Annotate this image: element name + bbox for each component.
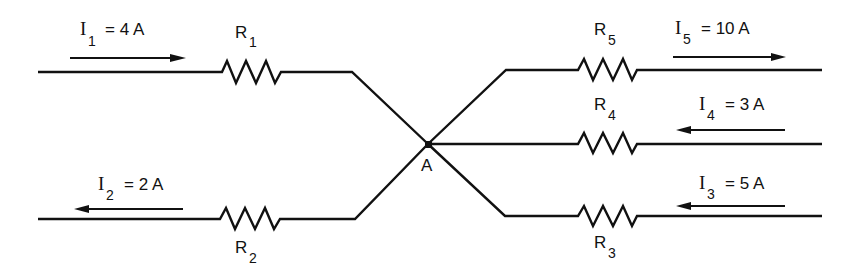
circuit-diagram: A I 1 = 4 A I 2 = 2 A I 5 = 10 A I 4 = 3… (0, 0, 849, 276)
svg-text:= 5 A: = 5 A (725, 174, 765, 193)
svg-text:R: R (594, 95, 606, 114)
branch-r2 (38, 144, 428, 229)
resistor-label-r1: R 1 (235, 23, 257, 50)
resistor-label-r5: R 5 (594, 20, 616, 48)
svg-text:I: I (80, 18, 86, 39)
svg-text:4: 4 (707, 107, 715, 123)
svg-text:R: R (235, 23, 247, 42)
resistor-label-r4: R 4 (594, 95, 616, 123)
current-label-i1: I 1 = 4 A (80, 18, 145, 49)
svg-text:I: I (699, 93, 705, 114)
current-label-i4: I 4 = 3 A (699, 93, 765, 123)
current-label-i2: I 2 = 2 A (98, 173, 164, 203)
arrow-i4 (676, 126, 785, 134)
svg-text:3: 3 (608, 245, 616, 261)
svg-text:5: 5 (608, 32, 616, 48)
svg-text:2: 2 (249, 250, 257, 266)
svg-text:1: 1 (249, 34, 257, 50)
svg-text:= 10 A: = 10 A (701, 19, 750, 38)
svg-text:1: 1 (88, 33, 96, 49)
resistor-label-r3: R 3 (594, 233, 616, 261)
svg-text:R: R (235, 238, 247, 257)
resistor-label-r2: R 2 (235, 238, 257, 266)
svg-text:R: R (594, 20, 606, 39)
branch-r1 (38, 61, 428, 144)
svg-text:4: 4 (608, 107, 616, 123)
svg-text:= 2 A: = 2 A (124, 175, 164, 194)
arrow-i3 (676, 202, 785, 210)
current-label-i3: I 3 = 5 A (699, 172, 765, 202)
current-label-i5: I 5 = 10 A (675, 17, 750, 47)
svg-text:3: 3 (707, 186, 715, 202)
svg-text:2: 2 (106, 187, 114, 203)
svg-text:= 4 A: = 4 A (105, 20, 145, 39)
node-a-dot (425, 141, 432, 148)
arrow-i1 (70, 54, 186, 62)
svg-text:= 3 A: = 3 A (725, 95, 765, 114)
svg-text:R: R (594, 233, 606, 252)
svg-text:I: I (699, 172, 705, 193)
svg-text:I: I (675, 17, 681, 38)
arrow-i2 (74, 205, 183, 213)
wire-r4 (428, 133, 822, 153)
svg-text:I: I (98, 173, 104, 194)
wire-r1 (38, 61, 428, 144)
branch-r4 (428, 133, 822, 153)
wire-r2 (38, 144, 428, 229)
svg-text:5: 5 (683, 31, 691, 47)
node-a-label: A (421, 156, 433, 175)
arrow-i5 (673, 53, 786, 61)
